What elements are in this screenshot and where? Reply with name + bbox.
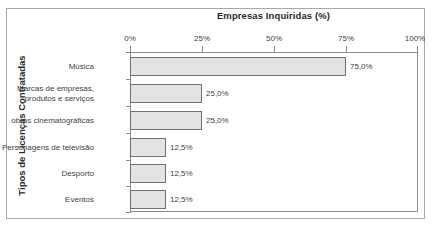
bar-marcas[interactable] — [130, 84, 202, 103]
bar-value-label: 12,5% — [170, 143, 193, 152]
bar-eventos[interactable] — [130, 190, 166, 209]
category-label-line1: Marcas de empresas, — [17, 84, 94, 93]
y-tick-mark-0 — [126, 52, 131, 53]
bar-personagens-televisao[interactable] — [130, 138, 166, 157]
category-label-line2: produtos e serviços — [25, 94, 94, 103]
x-tick-label-50: 50% — [266, 34, 282, 43]
bar-value-label: 12,5% — [170, 195, 193, 204]
bar-desporto[interactable] — [130, 164, 166, 183]
category-label: Eventos — [0, 195, 94, 205]
y-tick-mark-3 — [126, 133, 131, 134]
y-tick-mark-2 — [126, 106, 131, 107]
category-label: Personagens de televisão — [0, 143, 94, 153]
category-label: Música — [0, 62, 94, 72]
bar-row: Personagens de televisão 12,5% — [0, 138, 432, 157]
y-tick-mark-5 — [126, 186, 131, 187]
category-label: Marcas de empresas, produtos e serviços — [0, 84, 94, 103]
plot-area — [130, 52, 418, 212]
category-label: obras cinematográficas — [0, 116, 94, 126]
y-tick-mark-6 — [126, 212, 131, 213]
category-label: Desporto — [0, 169, 94, 179]
bar-row: Desporto 12,5% — [0, 164, 432, 183]
x-tick-label-25: 25% — [194, 34, 210, 43]
x-tick-label-75: 75% — [338, 34, 354, 43]
bar-value-label: 75,0% — [350, 62, 373, 71]
y-tick-mark-1 — [126, 79, 131, 80]
bar-row: obras cinematográficas 25,0% — [0, 111, 432, 130]
x-axis-tick-labels: 0% 25% 50% 75% 100% — [0, 34, 432, 46]
x-tick-label-100: 100% — [405, 34, 425, 43]
bar-value-label: 25,0% — [206, 116, 229, 125]
y-tick-mark-4 — [126, 160, 131, 161]
x-tick-label-0: 0% — [124, 34, 136, 43]
bar-value-label: 25,0% — [206, 89, 229, 98]
bar-obras-cinematograficas[interactable] — [130, 111, 202, 130]
bar-row: Música 75,0% — [0, 57, 432, 76]
bar-musica[interactable] — [130, 57, 346, 76]
bar-row: Marcas de empresas, produtos e serviços … — [0, 84, 432, 103]
chart-figure: Empresas Inquiridas (%) Tipos de Licença… — [0, 0, 432, 228]
chart-title: Empresas Inquiridas (%) — [128, 10, 419, 21]
bar-value-label: 12,5% — [170, 169, 193, 178]
bar-row: Eventos 12,5% — [0, 190, 432, 209]
